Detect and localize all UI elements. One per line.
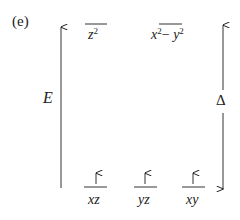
orbital-label-x2-y2: x2− y2 (151, 27, 184, 43)
panel-label: (e) (12, 13, 29, 30)
diagram-lines (0, 0, 240, 220)
orbital-label-z2: z2 (88, 27, 98, 43)
delta-label: Δ (216, 92, 226, 109)
energy-label: E (43, 89, 53, 107)
orbital-label-xz: xz (88, 192, 100, 208)
orbital-label-xy: xy (186, 192, 198, 208)
orbital-label-yz: yz (138, 192, 150, 208)
